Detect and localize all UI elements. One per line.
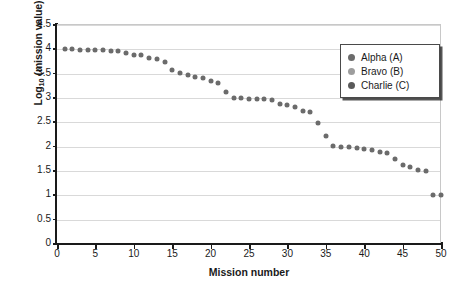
data-point — [62, 47, 67, 52]
x-tick-label: 15 — [157, 248, 187, 259]
gridline — [57, 220, 440, 221]
data-point — [293, 104, 298, 109]
x-tick-mark — [172, 244, 174, 249]
data-point — [247, 96, 252, 101]
data-point — [431, 193, 436, 198]
gridline — [57, 147, 440, 148]
chart-legend: Alpha (A)Bravo (B)Charlie (C) — [340, 44, 440, 98]
y-tick-mark — [53, 146, 57, 148]
y-tick-mark — [53, 194, 57, 196]
gridline — [57, 25, 440, 26]
data-point — [369, 147, 374, 152]
y-tick-label: 1.5 — [17, 164, 51, 175]
data-point — [223, 89, 228, 94]
y-tick-mark — [53, 24, 57, 26]
data-point — [185, 73, 190, 78]
y-tick-mark — [53, 48, 57, 50]
x-tick-mark — [441, 244, 443, 249]
y-tick-label: 3 — [17, 91, 51, 102]
data-point — [101, 48, 106, 53]
y-tick-label: 0 — [17, 237, 51, 248]
x-tick-mark — [364, 244, 366, 249]
data-point — [277, 101, 282, 106]
x-tick-label: 10 — [119, 248, 149, 259]
legend-label: Charlie (C) — [361, 80, 409, 91]
legend-item[interactable]: Bravo (B) — [348, 64, 435, 78]
legend-item[interactable]: Charlie (C) — [348, 78, 435, 92]
data-point — [147, 55, 152, 60]
y-axis-title-subscript: 10 — [37, 78, 46, 86]
x-tick-label: 0 — [42, 248, 72, 259]
data-point — [415, 168, 420, 173]
legend-item[interactable]: Alpha (A) — [348, 50, 435, 64]
data-point — [78, 47, 83, 52]
data-point — [300, 109, 305, 114]
data-point — [423, 168, 428, 173]
y-tick-label: 4 — [17, 42, 51, 53]
x-tick-mark — [326, 244, 328, 249]
y-tick-mark — [53, 121, 57, 123]
data-point — [139, 53, 144, 58]
data-point — [162, 59, 167, 64]
data-point — [193, 74, 198, 79]
y-tick-label: 2 — [17, 140, 51, 151]
data-point — [308, 109, 313, 114]
y-tick-label: 0.5 — [17, 213, 51, 224]
chart-figure: Log10 (mission value) Mission number 00.… — [0, 0, 457, 285]
y-tick-label: 4.5 — [17, 18, 51, 29]
legend-marker-icon — [348, 82, 355, 89]
data-point — [354, 145, 359, 150]
x-tick-mark — [134, 244, 136, 249]
data-point — [385, 150, 390, 155]
y-tick-label: 2.5 — [17, 115, 51, 126]
data-point — [339, 144, 344, 149]
gridline — [57, 122, 440, 123]
data-point — [408, 164, 413, 169]
x-tick-mark — [403, 244, 405, 249]
x-axis-title: Mission number — [57, 266, 441, 278]
data-point — [392, 156, 397, 161]
data-point — [170, 68, 175, 73]
x-tick-label: 50 — [426, 248, 456, 259]
data-point — [85, 47, 90, 52]
data-point — [323, 133, 328, 138]
x-tick-mark — [211, 244, 213, 249]
data-point — [108, 48, 113, 53]
data-point — [124, 50, 129, 55]
data-point — [131, 52, 136, 57]
legend-label: Alpha (A) — [361, 52, 403, 63]
data-point — [262, 97, 267, 102]
data-point — [285, 102, 290, 107]
y-tick-label: 1 — [17, 188, 51, 199]
x-tick-label: 25 — [234, 248, 264, 259]
data-point — [116, 49, 121, 54]
data-point — [154, 56, 159, 61]
x-tick-mark — [287, 244, 289, 249]
data-point — [439, 193, 444, 198]
x-tick-label: 45 — [388, 248, 418, 259]
data-point — [200, 76, 205, 81]
data-point — [177, 70, 182, 75]
data-point — [331, 143, 336, 148]
data-point — [70, 47, 75, 52]
gridline — [57, 195, 440, 196]
x-tick-mark — [95, 244, 97, 249]
gridline — [57, 171, 440, 172]
data-point — [93, 47, 98, 52]
legend-label: Bravo (B) — [361, 66, 403, 77]
legend-marker-icon — [348, 54, 355, 61]
legend-marker-icon — [348, 68, 355, 75]
x-tick-mark — [249, 244, 251, 249]
x-tick-label: 20 — [196, 248, 226, 259]
y-tick-mark — [53, 97, 57, 99]
y-tick-label: 3.5 — [17, 67, 51, 78]
data-point — [346, 145, 351, 150]
data-point — [362, 146, 367, 151]
x-tick-label: 35 — [311, 248, 341, 259]
data-point — [254, 96, 259, 101]
data-point — [400, 162, 405, 167]
y-tick-mark — [53, 170, 57, 172]
data-point — [216, 80, 221, 85]
data-point — [316, 121, 321, 126]
data-point — [239, 95, 244, 100]
